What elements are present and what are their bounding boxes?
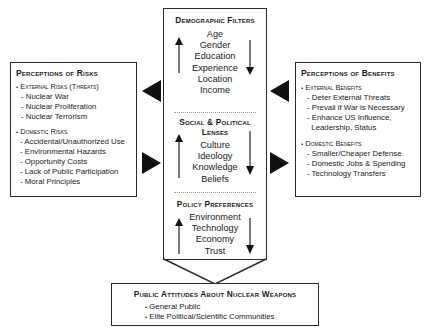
attitudes-title: Public Attitudes About Nuclear Weapons — [112, 289, 318, 299]
benefit-item: Leadership, Status — [307, 123, 420, 133]
policy-preferences-title: Policy Preferences — [164, 199, 266, 209]
perceptions-of-risks-box: Perceptions of Risks • External Risks (T… — [10, 62, 137, 197]
benefits-title: Perceptions of Benefits — [301, 68, 420, 78]
arrow-left-icon — [270, 80, 290, 102]
benefit-item: - Enhance US Influence, — [307, 113, 420, 123]
bullet: • — [301, 141, 303, 147]
arrow-left-icon — [142, 80, 162, 102]
domestic-benefits-label: Domestic Benefits — [305, 139, 361, 148]
demographic-item: Location — [164, 74, 266, 85]
attitude-item: General Public — [149, 302, 200, 311]
chevron-connector — [163, 258, 267, 285]
risk-item: - Lack of Public Participation — [20, 167, 136, 177]
arrow-up-icon — [175, 218, 183, 254]
bullet: • — [145, 304, 147, 310]
risk-item: - Nuclear War — [21, 92, 136, 102]
arrow-right-icon — [142, 152, 162, 174]
risk-item: - Environmental Hazards — [20, 147, 136, 157]
domestic-risks-label: Domestic Risks — [20, 127, 67, 136]
benefit-item: - Smaller/Cheaper Defense — [307, 149, 420, 159]
bullet: • — [301, 85, 303, 91]
bullet: • — [16, 129, 18, 135]
risks-title: Perceptions of Risks — [16, 68, 136, 78]
benefit-item: - Prevail if War is Necessary — [307, 103, 420, 113]
risk-item: - Opportunity Costs — [20, 157, 136, 167]
benefit-item: - Deter External Threats — [307, 93, 420, 103]
attitude-item: Elite Political/Scientific Communities — [149, 312, 274, 321]
arrow-down-icon — [246, 218, 254, 254]
arrow-down-icon — [246, 40, 254, 75]
public-attitudes-box: Public Attitudes About Nuclear Weapons •… — [111, 283, 319, 326]
arrow-right-icon — [270, 152, 290, 174]
demographic-item: Income — [164, 85, 266, 96]
external-risks-label: External Risks (Threats) — [20, 82, 99, 91]
benefit-item: - Technology Transfers — [307, 169, 420, 179]
risk-item: - Moral Principles — [20, 177, 136, 187]
risk-item: - Nuclear Proliferation — [21, 102, 136, 112]
risk-item: - Accidental/Unauthorized Use — [20, 137, 136, 147]
arrow-down-icon — [246, 131, 254, 175]
external-benefits-label: External Benefits — [305, 83, 361, 92]
bullet: • — [16, 84, 18, 90]
arrow-up-icon — [175, 134, 183, 178]
benefit-item: - Domestic Jobs & Spending — [307, 159, 420, 169]
arrow-up-icon — [175, 37, 183, 73]
divider — [174, 192, 256, 194]
bullet: • — [145, 314, 147, 320]
risk-item: - Nuclear Terrorism — [21, 112, 136, 122]
demographic-filters-title: Demographic Filters — [164, 15, 266, 25]
divider — [174, 112, 256, 114]
perceptions-of-benefits-box: Perceptions of Benefits • External Benef… — [295, 62, 421, 197]
